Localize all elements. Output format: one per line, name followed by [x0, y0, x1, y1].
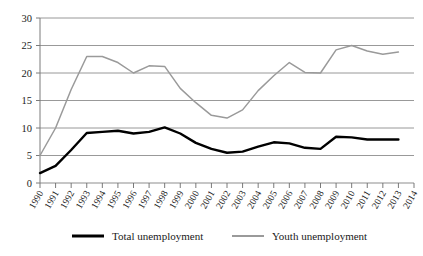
x-axis-tick-label: 2001	[198, 189, 216, 211]
legend-label: Youth unemployment	[272, 230, 367, 242]
y-axis-tick-label: 0	[27, 178, 32, 189]
y-axis-tick-label: 25	[22, 40, 33, 51]
x-axis-tick-label: 2000	[183, 189, 201, 211]
y-axis-tick-label: 30	[22, 13, 33, 24]
x-axis-tick-label: 2011	[354, 189, 372, 210]
x-axis-tick-label: 2010	[339, 189, 357, 211]
legend-label: Total unemployment	[112, 230, 203, 242]
y-axis-tick-label: 10	[22, 123, 33, 134]
gridlines	[40, 18, 414, 183]
x-axis-tick-label: 2002	[214, 189, 232, 211]
x-axis-tick-label: 2005	[261, 189, 279, 211]
x-axis-tick-label: 2003	[230, 189, 248, 211]
x-axis-tick-label: 2012	[370, 189, 388, 211]
chart-legend: Total unemploymentYouth unemployment	[72, 230, 367, 242]
series-line	[40, 127, 398, 173]
x-axis-ticks	[40, 183, 414, 188]
x-axis-tick-label: 2006	[276, 189, 294, 211]
series-lines	[40, 46, 398, 174]
y-axis-tick-label: 5	[27, 150, 32, 161]
x-axis-tick-label: 1999	[167, 189, 185, 211]
line-chart: 051015202530 199019911992199319941995199…	[0, 0, 423, 256]
x-axis-tick-label: 2014	[401, 189, 419, 211]
x-axis-tick-label: 1998	[152, 189, 170, 211]
x-axis-tick-label: 1996	[121, 189, 139, 211]
x-axis-tick-label: 1992	[58, 189, 76, 211]
x-axis-tick-label: 1995	[105, 189, 123, 211]
x-axis-tick-labels: 1990199119921993199419951996199719981999…	[27, 189, 419, 211]
chart-container: 051015202530 199019911992199319941995199…	[0, 0, 423, 256]
x-axis-tick-label: 1991	[43, 189, 61, 211]
y-axis-tick-labels: 051015202530	[22, 13, 41, 189]
x-axis-tick-label: 1990	[27, 189, 45, 211]
x-axis-tick-label: 2008	[308, 189, 326, 211]
x-axis-tick-label: 2004	[245, 189, 263, 211]
x-axis-tick-label: 1997	[136, 189, 154, 211]
x-axis-tick-label: 2013	[385, 189, 403, 211]
x-axis-tick-label: 1994	[89, 189, 107, 211]
y-axis-tick-label: 20	[22, 68, 33, 79]
y-axis-tick-label: 15	[22, 95, 33, 106]
x-axis-tick-label: 1993	[74, 189, 92, 211]
x-axis-tick-label: 2009	[323, 189, 341, 211]
x-axis-tick-label: 2007	[292, 189, 310, 211]
